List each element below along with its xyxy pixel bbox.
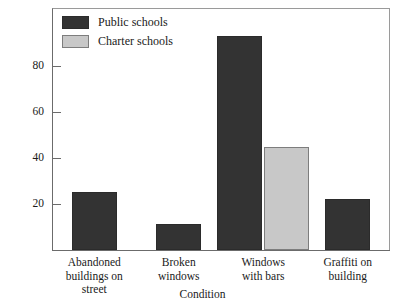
category-label-line: Abandoned [52,256,137,270]
legend-label: Charter schools [98,35,173,47]
y-axis-tick-label: 80 [0,60,44,72]
bar-public [217,36,262,250]
y-axis-tick-label: 20 [0,198,44,210]
bar-public [325,199,370,250]
bar-public [72,192,117,250]
x-axis-title: Condition [0,288,405,300]
y-axis-tick-label: 60 [0,106,44,118]
light-swatch-icon [62,35,89,48]
x-axis-line [52,250,390,251]
chart-legend: Public schools Charter schools [62,14,173,52]
bar-charter [264,147,309,250]
x-axis-category-label: Graffiti onbuilding [306,256,391,283]
category-label-line: buildings on [52,270,137,284]
legend-item-public-schools: Public schools [62,14,173,30]
category-label-line: with bars [221,270,306,284]
legend-label: Public schools [98,16,168,28]
category-label-line: Windows [221,256,306,270]
x-axis-category-label: Brokenwindows [137,256,222,283]
bar-public [156,224,201,251]
category-label-line: Broken [137,256,222,270]
category-label-line: building [306,270,391,284]
x-axis-category-label: Windowswith bars [221,256,306,283]
dark-swatch-icon [62,16,89,29]
category-label-line: windows [137,270,222,284]
bar-chart: 20406080 Abandonedbuildings onstreetBrok… [0,0,405,303]
category-label-line: Graffiti on [306,256,391,270]
y-axis-tick-label: 40 [0,152,44,164]
legend-item-charter-schools: Charter schools [62,33,173,49]
